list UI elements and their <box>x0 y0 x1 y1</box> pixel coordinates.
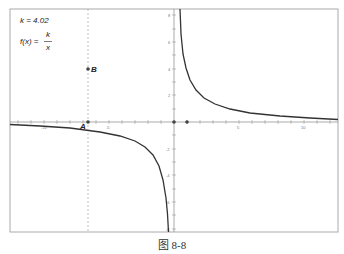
k-value-label: k = 4.02 <box>20 16 49 25</box>
point-B[interactable] <box>86 67 90 71</box>
figure-caption: 图 8-8 <box>0 236 344 252</box>
point-dashed-x-axis[interactable] <box>86 120 90 124</box>
graph-canvas: -10 -5 5 10 8 6 4 2 -2 -4 -6 -8 B A k = … <box>0 0 344 254</box>
point-A-label: A <box>79 122 86 131</box>
origin-point[interactable] <box>172 120 176 124</box>
function-lhs: f(x) = <box>20 37 39 46</box>
point-on-x-axis[interactable] <box>185 120 189 124</box>
x-tick-label: 10 <box>301 125 306 130</box>
point-B-label: B <box>91 65 97 74</box>
